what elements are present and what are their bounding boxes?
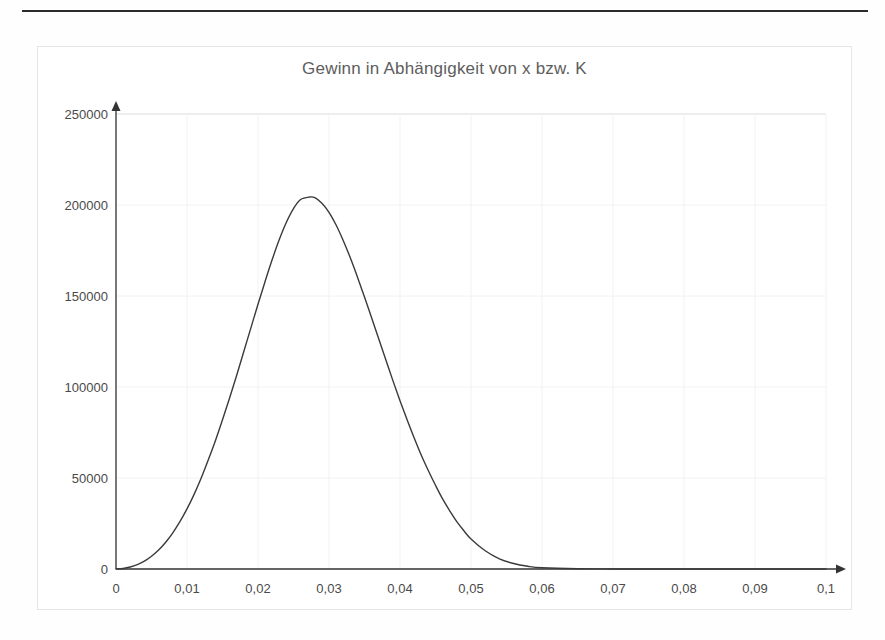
y-tick: 50000 (38, 478, 108, 493)
y-tick: 150000 (38, 296, 108, 311)
x-tick-label: 0,05 (458, 581, 483, 596)
x-axis-arrow-icon (836, 565, 846, 574)
page-top-rule (22, 10, 868, 12)
x-tick-label: 0,01 (174, 581, 199, 596)
x-tick-label: 0,03 (316, 581, 341, 596)
scanned-page: Gewinn in Abhängigkeit von x bzw. K 0500… (0, 0, 885, 640)
x-tick-label: 0,04 (387, 581, 412, 596)
y-tick-label: 100000 (38, 380, 108, 395)
x-tick-label: 0,1 (817, 581, 835, 596)
y-tick-label: 250000 (38, 107, 108, 122)
x-tick-label: 0,06 (529, 581, 554, 596)
axis-lines (112, 101, 847, 574)
y-tick-label: 50000 (38, 471, 108, 486)
y-tick-label: 200000 (38, 198, 108, 213)
plot-area: 050000100000150000200000250000 00,010,02… (38, 47, 853, 611)
x-tick-label: 0,07 (600, 581, 625, 596)
x-tick-label: 0,02 (245, 581, 270, 596)
y-tick: 100000 (38, 387, 108, 402)
y-tick-label: 150000 (38, 289, 108, 304)
chart-frame: Gewinn in Abhängigkeit von x bzw. K 0500… (37, 46, 852, 610)
chart-plot-svg (38, 47, 853, 611)
gridlines (116, 114, 826, 569)
y-tick: 0 (38, 569, 108, 584)
y-axis-arrow-icon (112, 101, 121, 111)
y-tick-label: 0 (38, 562, 108, 577)
y-tick: 250000 (38, 114, 108, 129)
x-tick-label: 0 (112, 581, 119, 596)
x-tick-label: 0,08 (671, 581, 696, 596)
x-tick-label: 0,09 (742, 581, 767, 596)
y-tick: 200000 (38, 205, 108, 220)
